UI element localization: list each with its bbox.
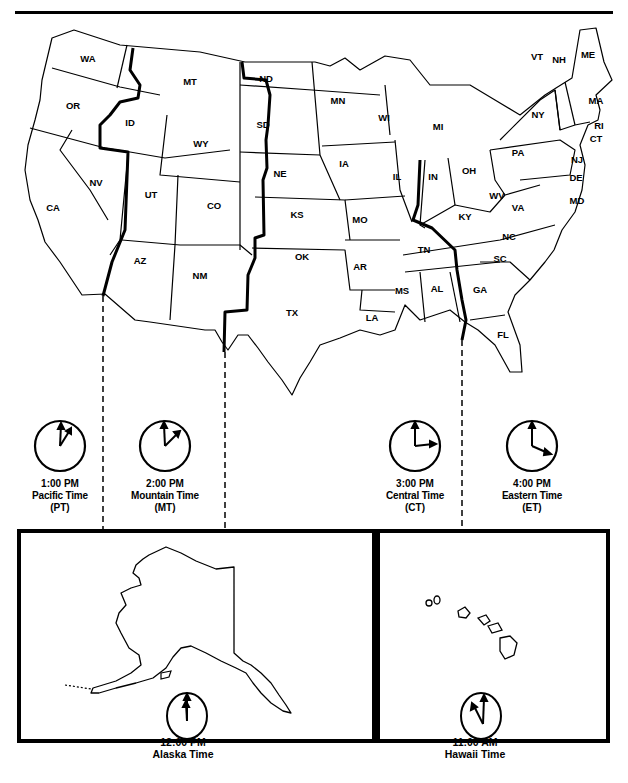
state-label-mn: MN [331,95,346,106]
clock-pacific-zone: Pacific Time [0,490,120,502]
clock-eastern-zone: Eastern Time [472,490,592,502]
state-label-ok: OK [295,251,309,262]
clock-mountain-face-icon [137,418,193,474]
clock-mountain-abbr: (MT) [105,502,225,514]
clock-central-zone: Central Time [355,490,475,502]
state-label-mo: MO [352,214,367,225]
state-label-or: OR [66,100,80,111]
state-label-ga: GA [473,284,487,295]
clock-central-abbr: (CT) [355,502,475,514]
state-label-ky: KY [458,211,472,222]
clock-eastern-time: 4:00 PM [472,478,592,490]
clock-mountain-zone: Mountain Time [105,490,225,502]
state-label-ks: KS [290,209,303,220]
clock-pacific-abbr: (PT) [0,502,120,514]
hawaii-map [380,533,606,739]
hawaii-time: 11:00 AM [405,736,545,748]
clock-hands [161,422,180,446]
state-label-ny: NY [531,109,545,120]
clock-pacific: 1:00 PM Pacific Time (PT) [0,418,120,514]
alaska-inset [17,529,376,743]
state-label-nj: NJ [571,154,583,165]
state-label-tn: TN [418,244,431,255]
state-label-va: VA [512,202,525,213]
hawaii-caption: 11:00 AM Hawaii Time [405,736,545,760]
state-label-ca: CA [46,202,60,213]
state-label-ma: MA [589,95,604,106]
clock-eastern-face-icon [504,418,560,474]
state-label-il: IL [393,171,402,182]
clock-pacific-face-icon [32,418,88,474]
state-label-me: ME [581,49,595,60]
state-label-ct: CT [590,133,603,144]
clock-hands [412,422,436,447]
clock-central: 3:00 PM Central Time (CT) [355,418,475,514]
state-label-co: CO [207,200,221,211]
state-label-wa: WA [80,53,95,64]
state-label-in: IN [428,171,438,182]
state-label-md: MD [570,195,585,206]
state-label-de: DE [569,172,582,183]
clock-eastern: 4:00 PM Eastern Time (ET) [472,418,592,514]
state-label-nc: NC [502,231,516,242]
state-label-vt: VT [531,51,543,62]
alaska-outline [91,547,291,713]
alaska-map [21,533,372,739]
clock-hands [58,423,71,446]
alaska-time: 12:00 PM [113,736,253,748]
clock-central-face-icon [387,418,443,474]
clock-central-time: 3:00 PM [355,478,475,490]
state-label-az: AZ [134,255,147,266]
state-label-tx: TX [286,307,299,318]
alaska-caption: 12:00 PM Alaska Time [113,736,253,760]
state-label-oh: OH [462,165,476,176]
state-label-ri: RI [594,120,604,131]
state-label-wv: WV [489,190,505,201]
state-label-wi: WI [378,112,390,123]
state-label-ms: MS [395,285,409,296]
state-label-ar: AR [353,261,367,272]
state-label-nd: ND [259,73,273,84]
clock-mountain-time: 2:00 PM [105,478,225,490]
state-label-sc: SC [493,253,506,264]
clock-mountain: 2:00 PM Mountain Time (MT) [105,418,225,514]
state-label-pa: PA [512,147,525,158]
clock-pacific-time: 1:00 PM [0,478,120,490]
state-label-wy: WY [193,138,209,149]
clock-hawaii-face-icon [461,693,501,739]
state-label-ut: UT [145,189,158,200]
state-label-nv: NV [89,177,103,188]
hawaii-zone: Hawaii Time [405,748,545,760]
clock-eastern-abbr: (ET) [472,502,592,514]
state-labels: WAORCANVIDMTWYUTCOAZNMNDSDNEKSOKTXMNIAMO… [46,49,604,340]
state-label-la: LA [366,312,379,323]
hawaii-inset [376,529,610,743]
mountain-central-boundary [224,62,270,352]
alaska-zone: Alaska Time [113,748,253,760]
state-label-nm: NM [193,270,208,281]
state-label-fl: FL [497,329,509,340]
state-label-mi: MI [433,121,444,132]
state-label-mt: MT [183,76,197,87]
state-label-id: ID [125,117,135,128]
state-label-ia: IA [339,158,349,169]
state-label-ne: NE [273,168,286,179]
state-label-sd: SD [256,119,269,130]
state-label-nh: NH [552,54,566,65]
hawaii-islands [426,596,517,659]
state-label-al: AL [431,283,444,294]
clock-alaska-face-icon [167,693,207,739]
